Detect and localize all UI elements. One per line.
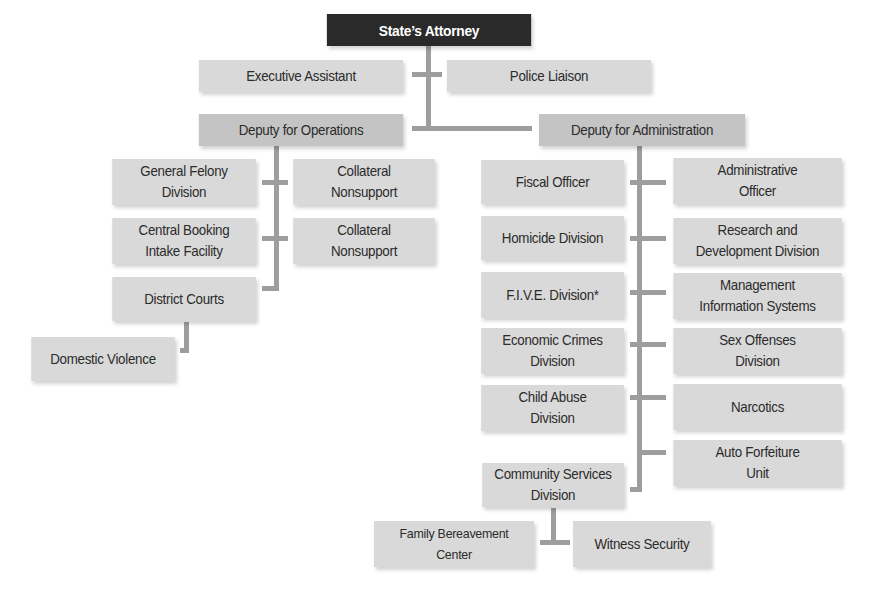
connector — [262, 180, 288, 185]
node-label: Witness Security — [595, 534, 690, 555]
connector — [637, 146, 642, 492]
node-fiscal-officer[interactable]: Fiscal Officer — [481, 160, 624, 204]
node-child-abuse[interactable]: Child Abuse Division — [481, 385, 624, 431]
node-label: Fiscal Officer — [516, 172, 590, 193]
node-collateral-nonsupport-1[interactable]: Collateral Nonsupport — [293, 159, 435, 205]
node-label: Auto Forfeiture Unit — [715, 442, 799, 484]
node-general-felony-division[interactable]: General Felony Division — [112, 159, 256, 205]
connector — [630, 236, 666, 241]
node-label: Management Information Systems — [699, 275, 815, 317]
node-label: Collateral Nonsupport — [331, 161, 397, 203]
node-homicide-division[interactable]: Homicide Division — [481, 216, 624, 260]
connector — [630, 487, 642, 492]
node-economic-crimes[interactable]: Economic Crimes Division — [481, 328, 624, 374]
node-label: State’s Attorney — [379, 20, 479, 41]
node-label: Administrative Officer — [718, 160, 798, 202]
node-label: Narcotics — [731, 397, 784, 418]
connector — [630, 342, 666, 347]
node-label: Executive Assistant — [246, 66, 356, 87]
node-district-courts[interactable]: District Courts — [112, 277, 256, 321]
node-deputy-operations[interactable]: Deputy for Operations — [199, 114, 403, 146]
node-label: Research and Development Division — [696, 220, 819, 262]
node-label: Sex Offenses Division — [719, 330, 796, 372]
node-label: General Felony Division — [140, 161, 227, 203]
connector — [426, 46, 431, 129]
connector — [630, 290, 666, 295]
node-label: Family Bereavement Center — [400, 523, 509, 565]
node-auto-forfeiture[interactable]: Auto Forfeiture Unit — [673, 440, 841, 486]
node-domestic-violence[interactable]: Domestic Violence — [31, 337, 175, 381]
node-management-information-systems[interactable]: Management Information Systems — [673, 273, 841, 319]
connector — [262, 236, 288, 241]
connector — [274, 146, 279, 290]
node-label: Police Liaison — [510, 66, 588, 87]
node-executive-assistant[interactable]: Executive Assistant — [199, 60, 403, 92]
connector — [630, 395, 666, 400]
node-community-services[interactable]: Community Services Division — [482, 463, 624, 507]
node-label: Community Services Division — [494, 464, 611, 506]
node-label: Economic Crimes Division — [502, 330, 602, 372]
node-central-booking-intake[interactable]: Central Booking Intake Facility — [112, 218, 256, 264]
node-police-liaison[interactable]: Police Liaison — [447, 60, 651, 92]
node-five-division[interactable]: F.I.V.E. Division* — [481, 272, 624, 318]
node-collateral-nonsupport-2[interactable]: Collateral Nonsupport — [293, 218, 435, 264]
connector — [551, 508, 556, 544]
node-family-bereavement[interactable]: Family Bereavement Center — [374, 521, 534, 567]
connector — [540, 540, 570, 545]
node-narcotics[interactable]: Narcotics — [673, 384, 841, 430]
node-states-attorney[interactable]: State’s Attorney — [327, 14, 531, 46]
connector — [630, 180, 666, 185]
connector — [180, 348, 189, 353]
node-label: Collateral Nonsupport — [331, 220, 397, 262]
node-label: Deputy for Administration — [571, 120, 713, 141]
node-label: District Courts — [144, 289, 224, 310]
node-sex-offenses[interactable]: Sex Offenses Division — [673, 328, 841, 374]
node-label: Deputy for Operations — [239, 120, 364, 141]
node-administrative-officer[interactable]: Administrative Officer — [673, 158, 841, 204]
node-deputy-administration[interactable]: Deputy for Administration — [539, 114, 745, 146]
node-label: Central Booking Intake Facility — [139, 220, 230, 262]
node-research-development[interactable]: Research and Development Division — [673, 218, 841, 264]
connector — [412, 72, 442, 77]
node-label: Child Abuse Division — [518, 387, 586, 429]
connector — [412, 126, 532, 131]
connector — [262, 286, 279, 291]
node-label: F.I.V.E. Division* — [506, 285, 598, 306]
node-witness-security[interactable]: Witness Security — [573, 521, 711, 567]
connector — [637, 450, 666, 455]
node-label: Domestic Violence — [50, 349, 156, 370]
node-label: Homicide Division — [502, 228, 603, 249]
